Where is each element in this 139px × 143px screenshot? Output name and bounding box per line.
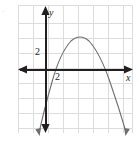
axes: [0, 0, 139, 143]
x-axis-label: x: [126, 73, 130, 83]
y-axis-label: y: [49, 8, 53, 18]
x-axis-tick-label-2: 2: [55, 72, 60, 82]
plot-layer: y x 2 2: [0, 0, 139, 143]
y-axis-tick-label-2: 2: [35, 47, 40, 57]
graph-figure: ·: [0, 0, 139, 143]
